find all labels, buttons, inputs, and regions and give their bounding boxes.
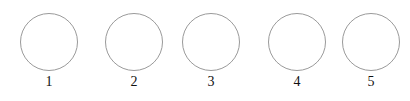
circle-label-3: 3 (176, 75, 246, 89)
circle-shape-2 (105, 13, 163, 71)
circle-label-4: 4 (262, 75, 332, 89)
circle-shape-3 (182, 13, 240, 71)
circle-shape-5 (342, 13, 400, 71)
circle-item: 2 (99, 0, 169, 101)
circle-item: 4 (262, 0, 332, 101)
circle-shape-1 (20, 13, 78, 71)
circle-label-2: 2 (99, 75, 169, 89)
circle-label-5: 5 (336, 75, 406, 89)
circle-item: 5 (336, 0, 406, 101)
circle-shape-4 (268, 13, 326, 71)
circle-row-figure: 1 2 3 4 5 (0, 0, 410, 101)
circle-label-1: 1 (14, 75, 84, 89)
circle-item: 3 (176, 0, 246, 101)
circle-item: 1 (14, 0, 84, 101)
